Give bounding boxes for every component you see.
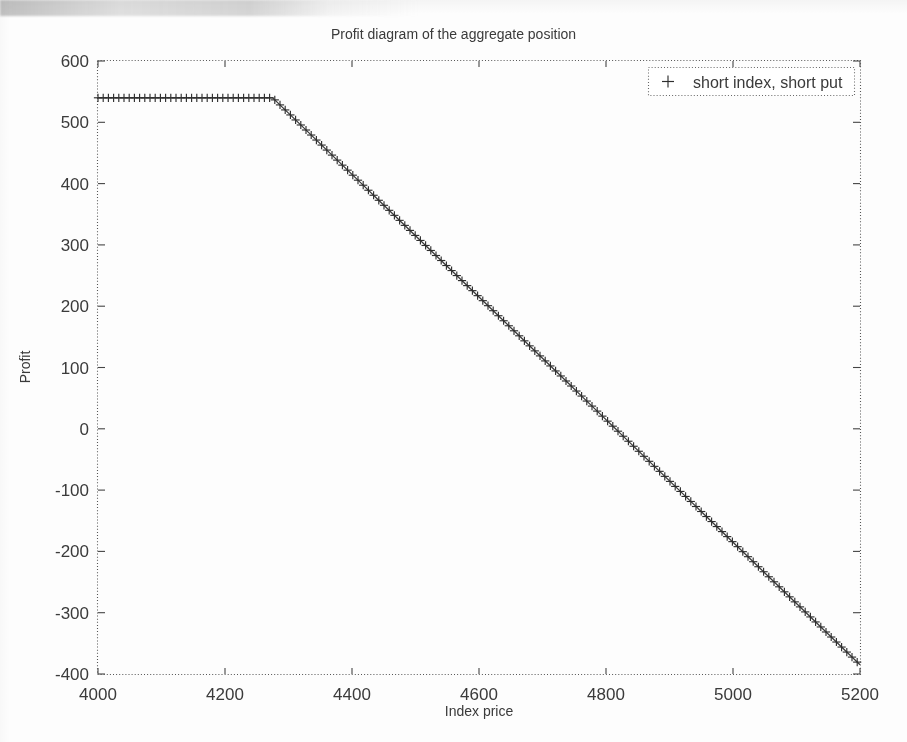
y-tick-label: -100 [55, 481, 89, 500]
x-tick-label: 5200 [841, 685, 879, 704]
legend-entry-label: short index, short put [693, 74, 843, 91]
x-axis-ticks [98, 61, 860, 674]
x-tick-label: 4600 [460, 685, 498, 704]
y-tick-label: -300 [55, 604, 89, 623]
plot-frame [98, 61, 861, 675]
y-tick-label: -200 [55, 542, 89, 561]
chart-svg: Profit diagram of the aggregate position… [0, 0, 907, 742]
x-axis-title: Index price [445, 703, 514, 719]
y-tick-label: 300 [61, 236, 89, 255]
y-tick-label: 400 [61, 175, 89, 194]
profit-diagram-figure: Profit diagram of the aggregate position… [0, 0, 907, 742]
x-tick-label: 4000 [79, 685, 117, 704]
y-tick-label: 100 [61, 359, 89, 378]
chart-title: Profit diagram of the aggregate position [331, 26, 576, 42]
x-tick-label: 4200 [206, 685, 244, 704]
y-axis-ticks [98, 61, 860, 674]
x-tick-label: 5000 [714, 685, 752, 704]
figure-page: Profit diagram of the aggregate position… [0, 0, 907, 742]
y-axis-title: Profit [17, 351, 33, 384]
x-axis-tick-labels: 4000420044004600480050005200 [79, 685, 879, 704]
y-tick-label: 0 [80, 420, 89, 439]
y-tick-label: 500 [61, 113, 89, 132]
y-axis-tick-labels: 6005004003002001000-100-200-300-400 [55, 52, 89, 684]
x-tick-label: 4400 [333, 685, 371, 704]
data-series-short-index-short-put [94, 94, 861, 667]
chart-legend[interactable]: short index, short put [649, 68, 855, 96]
y-tick-label: -400 [55, 665, 89, 684]
x-tick-label: 4800 [587, 685, 625, 704]
y-tick-label: 200 [61, 297, 89, 316]
y-tick-label: 600 [61, 52, 89, 71]
